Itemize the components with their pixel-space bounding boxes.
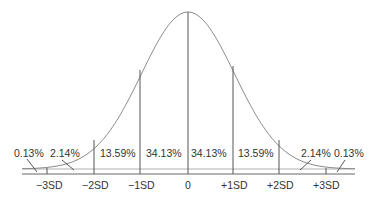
tick-label-plus-1sd: +1SD <box>221 179 248 191</box>
pct-label-right-2: 2.14% <box>301 147 331 159</box>
leader-line-far-right <box>337 160 345 172</box>
pct-label-left-1: 13.59% <box>100 147 136 159</box>
chart-svg: 0.13% 2.14% 13.59% 34.13% 34.13% 13.59% … <box>0 0 375 200</box>
normal-distribution-chart: 0.13% 2.14% 13.59% 34.13% 34.13% 13.59% … <box>0 0 375 200</box>
tick-label-minus-2sd: −2SD <box>82 179 109 191</box>
tick-label-plus-3sd: +3SD <box>313 179 340 191</box>
leader-line-far-left <box>27 159 37 172</box>
pct-label-left-0: 34.13% <box>146 147 182 159</box>
tick-label-minus-3sd: −3SD <box>36 179 63 191</box>
tick-label-plus-2sd: +2SD <box>267 179 294 191</box>
tick-label-zero: 0 <box>185 179 191 191</box>
pct-label-right-1: 13.59% <box>238 147 274 159</box>
pct-label-left-2: 2.14% <box>50 147 80 159</box>
tick-label-minus-1sd: −1SD <box>128 179 155 191</box>
pct-label-right-0: 34.13% <box>191 147 227 159</box>
pct-label-far-left: 0.13% <box>14 147 44 159</box>
pct-label-far-right: 0.13% <box>334 147 364 159</box>
